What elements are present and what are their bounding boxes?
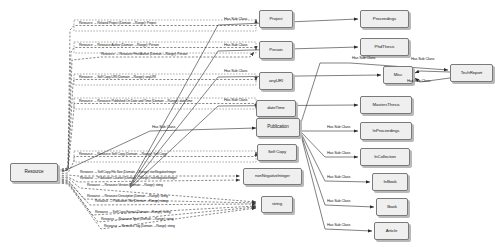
property-box-outline-group xyxy=(74,20,256,162)
property-edge-label-p-publication-title: Resource → Publication Title (Domain →Ra… xyxy=(95,200,168,203)
node-nonnegint[interactable]: nonNegativeInteger xyxy=(243,168,302,185)
subclass-edge-label-sc-mastersthesis: Has Sub Class xyxy=(224,99,247,103)
subclass-edge-label-sc-inbook: Has Sub Class xyxy=(327,176,350,180)
property-edge-label-p-self-copy-format: Resource → Self Copy Format (Domain →Ran… xyxy=(95,211,170,214)
property-edge-label-p-resource-type: Resource → Resource Type (Domain →Range)… xyxy=(101,218,173,221)
property-edge-label-p-resource-tag: Resource → Resource Tag (Domain →Range):… xyxy=(104,225,175,228)
node-inbook[interactable]: InBook xyxy=(372,173,408,191)
node-techreport[interactable]: TechReport xyxy=(450,64,493,82)
node-proceedings[interactable]: Proceedings xyxy=(360,10,409,28)
property-edge-label-p-resource-version: Resource → Resource Version (Domain →Ran… xyxy=(87,184,163,187)
subclass-edge-label-sc-article: Has Sub Class xyxy=(327,224,350,228)
subclass-edge-label-sc-techreport-out: Has Sub Class xyxy=(407,80,430,84)
diagram-canvas: ResourceProjectPersonanyURIdateTimePubli… xyxy=(0,0,495,247)
property-edge-label-p-resource-self-copy: Resource → Resource Self Copy (Domain →R… xyxy=(79,153,167,157)
property-edge-label-p-first-author: Resource → Resource First Author (Domain… xyxy=(101,53,187,57)
property-edge-label-p-resource-desc: Resource → Resource Description (Domain … xyxy=(87,195,168,198)
node-publication[interactable]: Publication xyxy=(256,118,300,137)
node-anyuri[interactable]: anyURI xyxy=(259,72,293,90)
property-edge-label-p-resource-author: Resource → Resource Author (Domain →Rang… xyxy=(79,44,159,48)
node-datetime[interactable]: dateTime xyxy=(256,100,296,117)
property-edge-label-p-related-project: Resource → Related Project (Domain →Rang… xyxy=(79,22,156,26)
node-string[interactable]: string xyxy=(261,196,293,213)
node-incollection[interactable]: InCollection xyxy=(360,148,410,166)
subclass-edge-label-sc-misc: Has Sub Class xyxy=(224,70,247,74)
node-phdthesis[interactable]: PhdThesis xyxy=(360,38,409,56)
node-article[interactable]: Article xyxy=(374,222,409,240)
node-mastersthesis[interactable]: MastersThesis xyxy=(360,96,412,114)
node-book[interactable]: Book xyxy=(376,198,408,216)
property-edge-label-p-publication-course: Resource → Publication Counter (Domain →… xyxy=(80,177,177,180)
property-edge-label-p-file-size: Resource → Self Copy File Size (Domain →… xyxy=(80,171,176,174)
node-person[interactable]: Person xyxy=(259,41,293,59)
node-selfcopy[interactable]: Self Copy xyxy=(257,144,297,161)
subclass-edge-label-sc-misc-top: Has Sub Class xyxy=(352,57,375,61)
property-edge-label-p-self-copy-uri: Resource → Self Copy URI (Domain →Range)… xyxy=(79,76,156,80)
node-inproceedings[interactable]: InProceedings xyxy=(360,122,412,140)
subclass-edge-label-sc-phdthesis: Has Sub Class xyxy=(224,44,247,48)
edge-layer xyxy=(0,0,495,247)
node-project[interactable]: Project xyxy=(259,10,293,28)
subclass-edge-label-sc-inproceedings: Has Sub Class xyxy=(327,126,350,130)
node-resource[interactable]: Resource xyxy=(10,163,58,182)
subclass-edge-label-sc-incollection: Has Sub Class xyxy=(327,152,350,156)
subclass-edge-label-sc-publication: Has Sub Class xyxy=(152,126,175,130)
subclass-edge-label-sc-proceedings: Has Sub Class xyxy=(224,18,247,22)
subclass-edge-label-sc-book: Has Sub Class xyxy=(327,200,350,204)
subclass-edge-label-sc-techreport-in: Has Sub Class xyxy=(411,58,434,62)
property-edge-label-p-published-on: Resource → Resource Published On Date an… xyxy=(79,100,192,104)
